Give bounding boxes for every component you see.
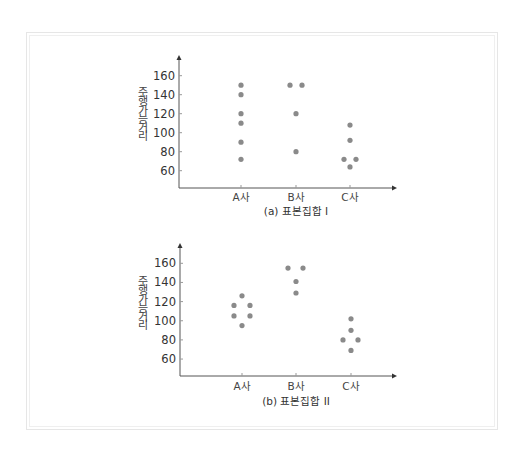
data-point [355,337,360,342]
data-point [347,164,352,169]
data-point [238,92,243,97]
scatter-figure: 6080100120140160A사B사C사주행가능거리(a) 표본집합 I 6… [0,0,526,460]
y-tick-label: 120 [153,107,175,121]
y-tick-label: 80 [161,333,176,347]
data-point [238,111,243,116]
y-tick-label: 60 [161,352,176,366]
data-point [299,83,304,88]
data-point [238,83,243,88]
chart-caption: (b) 표본집합 II [262,395,330,407]
data-point [239,293,244,298]
data-point [293,279,298,284]
chart-caption: (a) 표본집합 I [264,205,328,217]
data-point [348,328,353,333]
x-axis-arrow-icon [392,186,397,191]
data-point [348,316,353,321]
x-category-label: A사 [233,380,250,392]
y-axis-arrow-icon [177,55,182,60]
y-axis-label-char: 리 [138,319,148,332]
data-point [238,140,243,145]
data-point [285,265,290,270]
y-axis-label-char: 리 [138,130,148,143]
chart-sample-set-2: 6080100120140160A사B사C사주행가능거리(b) 표본집합 II [138,243,397,407]
data-point [340,337,345,342]
data-point [293,111,298,116]
x-category-label: B사 [287,380,304,392]
x-axis-arrow-icon [392,374,397,379]
y-tick-label: 80 [160,145,175,159]
x-category-label: C사 [341,191,358,203]
data-point [341,157,346,162]
data-point [293,290,298,295]
data-point [239,323,244,328]
data-point [238,157,243,162]
y-tick-label: 100 [153,126,175,140]
data-point [247,313,252,318]
chart-sample-set-1: 6080100120140160A사B사C사주행가능거리(a) 표본집합 I [138,55,397,217]
data-point [287,83,292,88]
data-point [293,149,298,154]
data-point [238,121,243,126]
y-tick-label: 160 [154,256,176,270]
data-point [231,303,236,308]
data-point [347,138,352,143]
y-tick-label: 120 [154,295,176,309]
data-point [231,313,236,318]
y-tick-label: 100 [154,314,176,328]
y-tick-label: 60 [160,164,175,178]
data-point [348,348,353,353]
y-tick-label: 140 [153,88,175,102]
data-point [353,157,358,162]
data-point [347,123,352,128]
y-tick-label: 140 [154,275,176,289]
data-point [300,265,305,270]
y-tick-label: 160 [153,69,175,83]
x-category-label: B사 [287,191,304,203]
data-point [247,303,252,308]
x-category-label: A사 [232,191,249,203]
x-category-label: C사 [342,380,359,392]
y-axis-arrow-icon [178,243,183,248]
